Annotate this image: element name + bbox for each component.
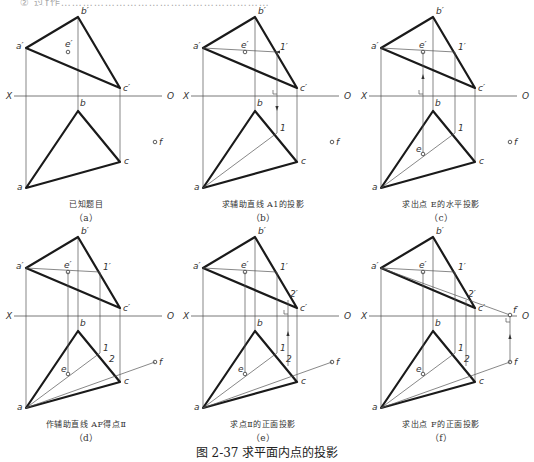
axis-label-x: X <box>182 311 190 321</box>
label-b-prime: b′ <box>81 226 89 236</box>
axis-label-x: X <box>360 91 368 101</box>
label-f: f <box>336 357 341 367</box>
point-e <box>66 372 70 376</box>
panel-a: XOa′b′c′bcae′f <box>5 6 174 192</box>
caption-sublabel: （a） <box>6 211 166 224</box>
line-a1 <box>203 353 277 408</box>
label-a-prime: a′ <box>371 261 379 271</box>
line-a1-prime <box>203 268 277 272</box>
label-b: b <box>80 318 86 328</box>
axis-label-o: O <box>167 311 174 321</box>
right-angle-mark <box>419 90 423 94</box>
label-f: f <box>514 137 519 147</box>
label-e-prime: e′ <box>419 40 427 50</box>
label-b: b <box>435 98 441 108</box>
panel-c: XOa′b′c′bcae′1′1ef <box>360 6 529 192</box>
label-1-prime: 1′ <box>458 262 466 272</box>
label-b: b <box>80 98 86 108</box>
line-a1 <box>26 353 100 408</box>
right-angle-mark <box>506 318 510 322</box>
arrow-up-e <box>421 74 424 79</box>
label-e-prime: e′ <box>241 260 249 270</box>
label-a: a <box>194 402 200 412</box>
label-a-prime: a′ <box>16 261 24 271</box>
label-2-prime: 2′ <box>290 289 298 299</box>
label-f: f <box>514 357 519 367</box>
label-f: f <box>336 137 341 147</box>
right-angle-mark <box>273 90 277 94</box>
label-1: 1 <box>458 123 464 133</box>
label-1: 1 <box>280 343 286 353</box>
label-e: e <box>416 144 422 154</box>
caption-text: 求点Ⅱ的正面投影 <box>183 418 343 429</box>
line-a1-prime <box>203 48 277 52</box>
label-a-prime: a′ <box>193 261 201 271</box>
axis-label-o: O <box>344 311 351 321</box>
label-b: b <box>257 98 263 108</box>
label-c: c <box>479 376 484 386</box>
line-a1 <box>381 353 455 408</box>
right-angle-mark <box>284 310 288 314</box>
front-view-triangle <box>26 17 120 88</box>
label-1-prime: 1′ <box>103 262 111 272</box>
panel-b: XOa′b′c′bcae′1′1f <box>182 6 351 192</box>
label-a-prime: a′ <box>193 41 201 51</box>
front-view-triangle <box>203 237 297 308</box>
caption-b: 求辅助直线 A1的投影（b） <box>183 198 343 224</box>
panel-e: XOa′b′c′bcae′1′1ef22′ <box>182 226 351 412</box>
label-2-prime: 2′ <box>468 289 476 299</box>
label-b: b <box>435 318 441 328</box>
caption-text: 作辅助直线 AF得点Ⅱ <box>6 418 166 429</box>
front-view-triangle <box>26 237 120 308</box>
label-b-prime: b′ <box>258 6 266 16</box>
label-c-prime: c′ <box>123 303 130 313</box>
point-f-prime <box>508 313 512 317</box>
point-e <box>421 152 425 156</box>
label-1: 1 <box>458 343 464 353</box>
label-c-prime: c′ <box>300 303 307 313</box>
caption-text: 求出点 F的正面投影 <box>361 418 521 429</box>
front-view-triangle <box>203 17 297 88</box>
projection-figure: XOa′b′c′bcae′fXOa′b′c′bcae′1′1fXOa′b′c′b… <box>0 0 534 462</box>
label-1: 1 <box>280 123 286 133</box>
axis-label-o: O <box>344 91 351 101</box>
axis-label-x: X <box>5 91 13 101</box>
caption-f: 求出点 F的正面投影（f） <box>361 418 521 444</box>
label-e: e <box>61 364 67 374</box>
point-e-prime <box>66 50 70 54</box>
line-a1-prime <box>26 268 100 272</box>
label-c: c <box>124 156 129 166</box>
label-e: e <box>238 364 244 374</box>
axis-label-x: X <box>360 311 368 321</box>
arrow-down-1 <box>275 106 278 111</box>
panel-d: XOa′b′c′bcae′1′1ef2 <box>5 226 174 412</box>
line-a1 <box>203 133 277 188</box>
line-a1-prime <box>381 48 455 52</box>
line-af <box>26 362 155 408</box>
axis-label-x: X <box>182 91 190 101</box>
label-e-prime: e′ <box>65 39 73 49</box>
caption-a: 已知题目（a） <box>6 198 166 224</box>
line-a1-prime <box>381 268 455 272</box>
caption-c: 求出点 E的水平投影（c） <box>361 198 521 224</box>
label-b: b <box>257 318 263 328</box>
label-1-prime: 1′ <box>280 42 288 52</box>
label-c-prime: c′ <box>300 83 307 93</box>
label-a: a <box>194 182 200 192</box>
label-2: 2 <box>464 354 470 364</box>
point-e <box>243 372 247 376</box>
label-e-prime: e′ <box>241 40 249 50</box>
caption-text: 求出点 E的水平投影 <box>361 198 521 209</box>
label-b-prime: b′ <box>81 6 89 16</box>
label-c: c <box>124 376 129 386</box>
line-af <box>381 362 510 408</box>
axis-label-o: O <box>522 311 529 321</box>
point-f <box>153 140 157 144</box>
caption-sublabel: （c） <box>361 211 521 224</box>
label-f: f <box>159 357 164 367</box>
axis-label-o: O <box>522 91 529 101</box>
figure-title: 图 2-37 求平面内点的投影 <box>0 443 534 460</box>
label-c-prime: c′ <box>123 83 130 93</box>
label-b-prime: b′ <box>436 6 444 16</box>
label-a: a <box>372 182 378 192</box>
